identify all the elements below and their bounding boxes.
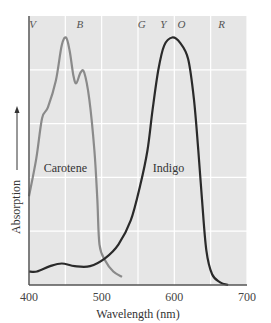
arrow-up-icon (15, 106, 20, 113)
color-band-label: R (217, 18, 225, 30)
absorption-chart: VBGYOR CaroteneIndigo 400500600700 Wavel… (0, 0, 271, 323)
color-band-label: O (178, 18, 186, 30)
x-tick-label: 400 (20, 290, 38, 304)
color-band-label: G (138, 18, 146, 30)
color-band-label: B (76, 18, 83, 30)
x-tick-label: 600 (165, 290, 183, 304)
x-axis-title: Wavelength (nm) (96, 307, 179, 321)
x-tick-label: 700 (238, 290, 256, 304)
y-axis-title-group: Absorption (9, 106, 23, 234)
y-axis-title: Absorption (9, 180, 23, 234)
x-tick-label: 500 (93, 290, 111, 304)
series-label-carotene: Carotene (44, 161, 87, 175)
series-label-indigo: Indigo (153, 161, 184, 175)
x-tick-labels: 400500600700 (20, 290, 256, 304)
